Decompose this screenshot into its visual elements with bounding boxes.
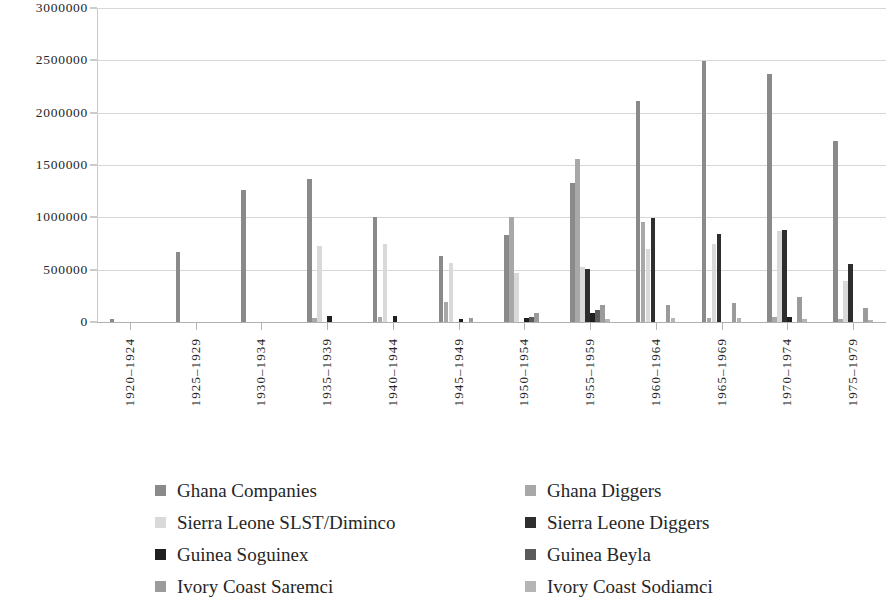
- legend-label: Guinea Beyla: [547, 545, 651, 564]
- legend-label: Sierra Leone Diggers: [547, 513, 710, 532]
- legend-swatch-icon: [155, 517, 166, 528]
- legend-item[interactable]: Guinea Soguinex: [155, 545, 525, 564]
- bar-group: [767, 8, 807, 322]
- x-axis-tick-mark: [393, 323, 394, 330]
- legend-item[interactable]: Guinea Beyla: [525, 545, 894, 564]
- bar: [383, 244, 387, 322]
- y-axis-tick-mark: [90, 8, 97, 9]
- x-axis-tick-mark: [459, 323, 460, 330]
- bar-group: [373, 8, 413, 322]
- y-axis-tick-label: 500000: [43, 262, 88, 278]
- x-axis-tick-label: 1940–1944: [385, 338, 401, 406]
- bar-group: [570, 8, 610, 322]
- bar-group: [439, 8, 479, 322]
- bar: [176, 252, 180, 322]
- bar: [833, 141, 837, 322]
- y-axis-tick-label: 0: [81, 314, 88, 330]
- chart-legend: Ghana CompaniesGhana DiggersSierra Leone…: [155, 474, 894, 601]
- bar: [509, 217, 513, 322]
- bar-group: [833, 8, 873, 322]
- x-axis-tick-label: 1965–1969: [714, 338, 730, 406]
- x-axis-tick-label: 1920–1924: [122, 338, 138, 406]
- bar: [782, 230, 786, 322]
- bar: [863, 308, 867, 322]
- y-axis-tick-mark: [90, 217, 97, 218]
- y-axis-tick-label: 1500000: [36, 157, 88, 173]
- bar: [636, 101, 640, 322]
- bar: [651, 218, 655, 322]
- bar: [595, 310, 599, 322]
- bar: [514, 273, 518, 322]
- legend-swatch-icon: [525, 517, 536, 528]
- legend-swatch-icon: [155, 485, 166, 496]
- bar: [641, 222, 645, 322]
- x-axis-tick-label: 1975–1979: [845, 338, 861, 406]
- x-axis-tick-mark: [656, 323, 657, 330]
- x-axis-tick-mark: [722, 323, 723, 330]
- x-axis-tick-mark: [590, 323, 591, 330]
- x-axis-tick-label: 1960–1964: [648, 338, 664, 406]
- bar: [646, 249, 650, 322]
- x-axis-tick-label: 1930–1934: [253, 338, 269, 406]
- bar: [317, 246, 321, 322]
- bar: [777, 231, 781, 322]
- bar: [767, 74, 771, 322]
- bar: [848, 264, 852, 322]
- x-axis-tick-label: 1935–1939: [319, 338, 335, 406]
- bar-group: [110, 8, 150, 322]
- bar: [712, 244, 716, 322]
- x-axis-tick-mark: [130, 323, 131, 330]
- legend-swatch-icon: [525, 581, 536, 592]
- bar: [241, 190, 245, 322]
- bar: [449, 263, 453, 322]
- legend-label: Ghana Companies: [177, 481, 317, 500]
- y-axis-tick-mark: [90, 112, 97, 113]
- bar: [439, 256, 443, 322]
- legend-item[interactable]: Ghana Companies: [155, 481, 525, 500]
- bar: [534, 313, 538, 322]
- bar: [504, 235, 508, 322]
- y-axis-tick-label: 2500000: [36, 52, 88, 68]
- bar: [702, 61, 706, 322]
- y-axis-tick-label: 2000000: [36, 105, 88, 121]
- x-axis-tick-label: 1945–1949: [451, 338, 467, 406]
- x-axis-tick-label: 1970–1974: [779, 338, 795, 406]
- plot-area: [97, 8, 886, 322]
- bar: [717, 234, 721, 322]
- bar: [666, 305, 670, 322]
- legend-row: Ivory Coast SaremciIvory Coast Sodiamci: [155, 570, 894, 601]
- x-axis-tick-label: 1925–1929: [188, 338, 204, 406]
- y-axis-tick-mark: [90, 322, 97, 323]
- legend-row: Sierra Leone SLST/DimincoSierra Leone Di…: [155, 506, 894, 538]
- legend-row: Guinea SoguinexGuinea Beyla: [155, 538, 894, 570]
- x-axis-tick-mark: [524, 323, 525, 330]
- legend-label: Ghana Diggers: [547, 481, 662, 500]
- legend-swatch-icon: [525, 485, 536, 496]
- legend-swatch-icon: [155, 581, 166, 592]
- bar-group: [307, 8, 347, 322]
- legend-label: Ivory Coast Saremci: [177, 577, 333, 596]
- bar-group: [176, 8, 216, 322]
- legend-item[interactable]: Sierra Leone SLST/Diminco: [155, 513, 525, 532]
- legend-swatch-icon: [525, 549, 536, 560]
- legend-item[interactable]: Sierra Leone Diggers: [525, 513, 894, 532]
- y-axis-tick-mark: [90, 269, 97, 270]
- bar-group: [241, 8, 281, 322]
- bar-group: [702, 8, 742, 322]
- legend-item[interactable]: Ivory Coast Sodiamci: [525, 577, 894, 596]
- x-axis-tick-mark: [261, 323, 262, 330]
- x-axis-tick-label: 1955–1959: [582, 338, 598, 406]
- bar: [797, 297, 801, 322]
- legend-swatch-icon: [155, 549, 166, 560]
- y-axis-tick-mark: [90, 60, 97, 61]
- bar-group: [504, 8, 544, 322]
- bar: [585, 269, 589, 322]
- legend-item[interactable]: Ghana Diggers: [525, 481, 894, 500]
- legend-item[interactable]: Ivory Coast Saremci: [155, 577, 525, 596]
- legend-label: Ivory Coast Sodiamci: [547, 577, 713, 596]
- x-axis-tick-mark: [787, 323, 788, 330]
- bar: [732, 303, 736, 322]
- bar: [580, 267, 584, 322]
- legend-row: Ghana CompaniesGhana Diggers: [155, 474, 894, 506]
